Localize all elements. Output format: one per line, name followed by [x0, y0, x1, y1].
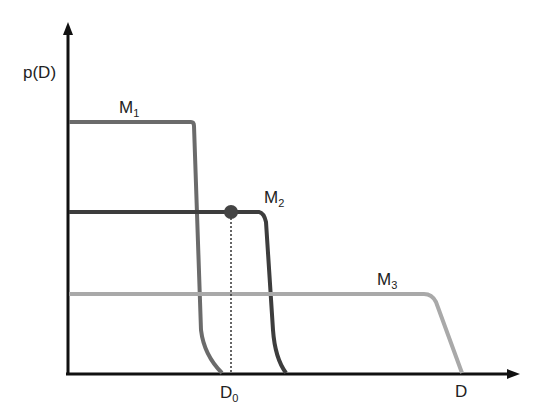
- d0-point: [224, 205, 238, 219]
- x-marker-d0-label: D0: [220, 383, 238, 404]
- y-axis-label: p(D): [23, 63, 56, 83]
- label-m3: M3: [377, 270, 397, 291]
- y-axis-arrow-icon: [63, 22, 73, 35]
- x-axis-label: D: [455, 382, 467, 402]
- label-m1: M1: [119, 98, 139, 119]
- diagram-canvas: [0, 0, 544, 419]
- label-m2: M2: [264, 188, 284, 209]
- x-axis-arrow-icon: [507, 369, 520, 379]
- curve-m1: [69, 122, 222, 373]
- curve-m3: [69, 294, 462, 373]
